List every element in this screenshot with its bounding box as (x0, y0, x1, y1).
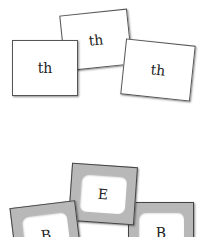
card-b-2[interactable]: B (128, 202, 194, 237)
card-label: B (40, 226, 52, 237)
card-th-1[interactable]: th (12, 40, 78, 96)
card-th-3[interactable]: th (120, 38, 195, 101)
card-b-1[interactable]: B (9, 200, 82, 237)
card-label: th (38, 60, 53, 76)
card-label: th (88, 31, 104, 48)
card-label: B (156, 225, 166, 237)
card-label: E (97, 186, 108, 203)
card-e[interactable]: E (68, 163, 138, 225)
card-label: th (150, 61, 166, 78)
